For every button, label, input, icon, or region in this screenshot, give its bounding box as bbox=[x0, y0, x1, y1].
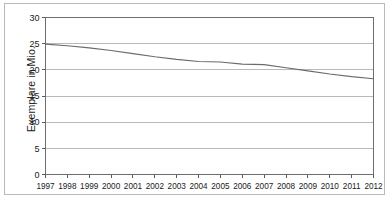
x-tick-label: 2002 bbox=[146, 182, 165, 191]
x-tick-label: 2003 bbox=[168, 182, 187, 191]
y-tick-label: 0 bbox=[34, 170, 39, 180]
x-tick-label: 2008 bbox=[277, 182, 296, 191]
x-tick-label: 2011 bbox=[343, 182, 361, 191]
x-tick-label: 2004 bbox=[189, 182, 208, 191]
x-tick-label: 1999 bbox=[80, 182, 99, 191]
x-tick-label: 2005 bbox=[211, 182, 230, 191]
x-tick-label: 2000 bbox=[102, 182, 121, 191]
y-tick-label: 30 bbox=[29, 13, 39, 23]
y-tick-label: 15 bbox=[29, 91, 39, 101]
x-tick-label: 2009 bbox=[299, 182, 318, 191]
chart-figure: Exemplare in Mio. 051015202530 199719981… bbox=[0, 0, 389, 199]
plot-canvas: 051015202530 199719981999200020012002200… bbox=[0, 0, 389, 199]
x-tick-label: 2006 bbox=[233, 182, 252, 191]
x-tick-label: 2010 bbox=[321, 182, 340, 191]
series-line bbox=[46, 44, 374, 79]
x-tick-label: 1997 bbox=[36, 182, 55, 191]
y-axis-tick-labels: 051015202530 bbox=[29, 13, 39, 180]
data-series bbox=[46, 44, 374, 79]
y-tick-label: 10 bbox=[29, 117, 39, 127]
x-axis-ticks bbox=[46, 175, 374, 179]
y-axis-ticks bbox=[42, 18, 46, 175]
x-axis-tick-labels: 1997199819992000200120022003200420052006… bbox=[36, 182, 383, 191]
x-tick-label: 1998 bbox=[58, 182, 77, 191]
y-tick-label: 5 bbox=[34, 144, 39, 154]
gridlines bbox=[46, 18, 374, 149]
x-tick-label: 2007 bbox=[255, 182, 274, 191]
y-tick-label: 20 bbox=[29, 65, 39, 75]
y-tick-label: 25 bbox=[29, 39, 39, 49]
x-tick-label: 2012 bbox=[364, 182, 383, 191]
x-tick-label: 2001 bbox=[124, 182, 143, 191]
